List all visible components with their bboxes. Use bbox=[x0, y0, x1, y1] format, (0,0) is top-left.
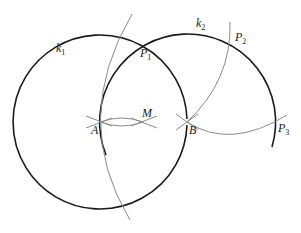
circle-k2 bbox=[100, 34, 276, 155]
label-P2: P2 bbox=[234, 30, 246, 46]
label-A: A bbox=[90, 123, 99, 137]
construction-arc-large bbox=[100, 14, 132, 220]
construction-diagram: k1 k2 P1 P2 P3 A M B bbox=[0, 0, 301, 233]
construction-arc-p3 bbox=[187, 115, 287, 134]
label-B: B bbox=[189, 123, 197, 137]
label-k2: k2 bbox=[196, 16, 205, 32]
label-P1: P1 bbox=[139, 46, 151, 62]
label-P3: P3 bbox=[277, 121, 289, 137]
label-M: M bbox=[141, 106, 153, 120]
